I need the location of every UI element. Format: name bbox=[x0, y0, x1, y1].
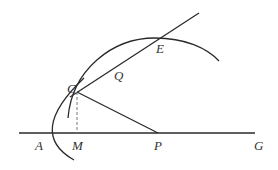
secant-line-CE bbox=[70, 13, 199, 97]
geometry-diagram: A M P G C Q E bbox=[0, 0, 278, 170]
label-Q: Q bbox=[114, 69, 123, 82]
label-C: C bbox=[67, 82, 76, 95]
label-P: P bbox=[154, 139, 162, 152]
circle-arc bbox=[68, 38, 219, 118]
label-M: M bbox=[72, 139, 83, 152]
segment-CP bbox=[77, 92, 158, 133]
label-G: G bbox=[254, 139, 263, 152]
label-E: E bbox=[156, 42, 164, 55]
label-A: A bbox=[35, 139, 43, 152]
